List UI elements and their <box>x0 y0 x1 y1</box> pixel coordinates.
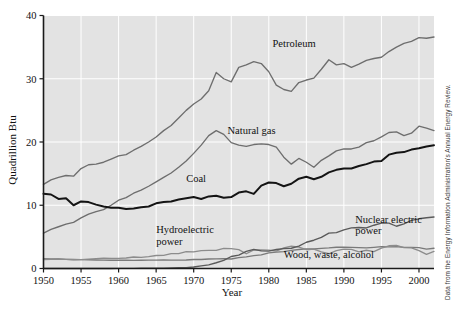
x-tick-label: 1990 <box>333 275 354 286</box>
x-tick-label: 2000 <box>408 275 429 286</box>
x-axis-tick-labels: 1950195519601965197019751980198519901995… <box>33 275 429 286</box>
x-tick-label: 1955 <box>71 275 92 286</box>
x-tick-label: 1975 <box>221 275 242 286</box>
source-attribution: Data from the Energy Information Adminis… <box>444 84 452 300</box>
x-axis-title: Year <box>222 286 243 298</box>
series-label-coal: Coal <box>186 173 206 184</box>
x-tick-label: 1995 <box>371 275 392 286</box>
x-tick-label: 1985 <box>296 275 317 286</box>
series-label-petroleum: Petroleum <box>273 38 316 49</box>
series-label-wood-waste-alcohol: Wood, waste, alcohol <box>284 249 374 260</box>
y-tick-label: 40 <box>26 10 37 21</box>
y-tick-label: 30 <box>26 74 37 85</box>
x-tick-label: 1970 <box>183 275 204 286</box>
energy-consumption-chart: 010203040 195019551960196519701975198019… <box>0 0 455 312</box>
x-tick-label: 1950 <box>33 275 54 286</box>
y-axis-title: Quadrillion Btu <box>6 115 18 185</box>
y-tick-label: 0 <box>31 263 36 274</box>
x-tick-label: 1980 <box>258 275 279 286</box>
x-tick-label: 1965 <box>146 275 167 286</box>
y-axis-tick-labels: 010203040 <box>26 10 37 274</box>
x-tick-label: 1960 <box>108 275 129 286</box>
series-label-natural-gas: Natural gas <box>227 125 275 136</box>
y-tick-label: 10 <box>26 200 37 211</box>
y-tick-label: 20 <box>26 137 37 148</box>
